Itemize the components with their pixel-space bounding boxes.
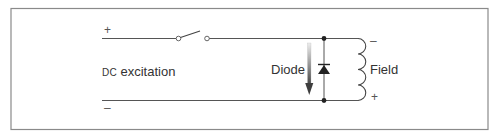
field-plus-label: + xyxy=(371,91,378,103)
current-arrow-icon xyxy=(305,43,313,95)
dc-excitation-label: DC excitation xyxy=(102,65,175,78)
field-coil-icon xyxy=(358,39,366,101)
switch-blade xyxy=(181,31,201,38)
excitation-text: excitation xyxy=(117,64,176,79)
junction-dot-bottom xyxy=(322,98,327,103)
source-plus-label: + xyxy=(104,24,111,36)
switch-contact-right xyxy=(205,36,210,41)
dc-prefix: DC xyxy=(102,67,117,78)
field-label: Field xyxy=(370,63,398,76)
field-minus-label: – xyxy=(370,35,377,47)
diode-symbol xyxy=(318,65,330,75)
circuit-diagram xyxy=(0,0,497,135)
switch-contact-left xyxy=(176,36,181,41)
diode-label: Diode xyxy=(271,63,305,76)
source-minus-label: – xyxy=(104,102,111,114)
diagram-frame xyxy=(11,9,488,130)
junction-dot-top xyxy=(322,36,327,41)
